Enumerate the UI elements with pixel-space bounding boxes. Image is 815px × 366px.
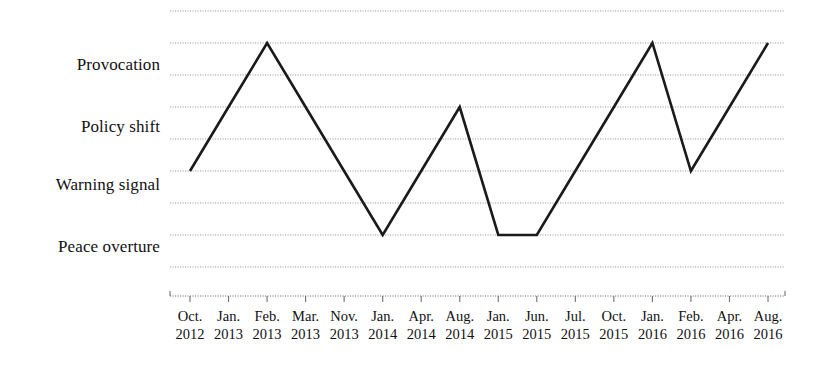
x-tick-year: 2016 — [744, 325, 792, 343]
x-tick-month: Aug. — [744, 307, 792, 325]
x-axis-tick-label: Aug.2016 — [744, 307, 792, 343]
event-timeline-chart: Provocation Policy shift Warning signal … — [0, 0, 815, 366]
series-line-escalation — [190, 43, 768, 235]
x-axis-group — [170, 291, 785, 302]
